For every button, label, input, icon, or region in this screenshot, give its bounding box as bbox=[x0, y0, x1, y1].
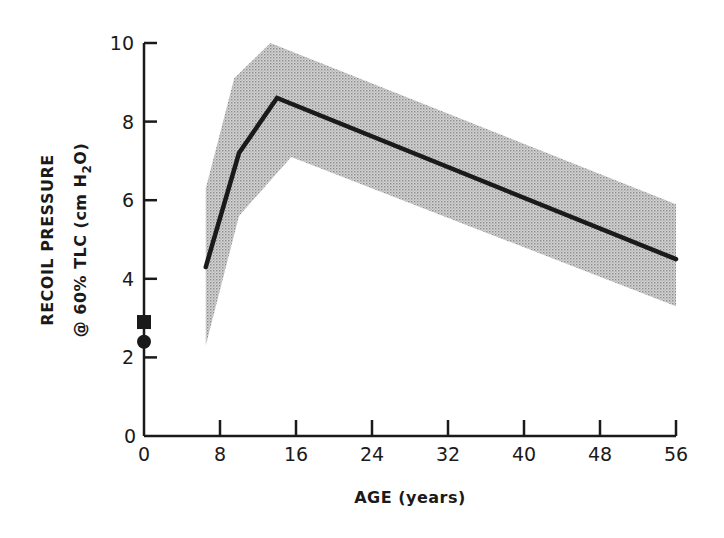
recoil-pressure-chart: 024681008162432404856 AGE (years) RECOIL… bbox=[0, 0, 724, 538]
x-tick-label: 0 bbox=[138, 443, 150, 465]
y-tick-label: 0 bbox=[124, 425, 136, 447]
range-band-area bbox=[206, 43, 676, 346]
range-band bbox=[206, 43, 676, 346]
x-tick-label: 8 bbox=[214, 443, 226, 465]
y-tick-label: 6 bbox=[122, 189, 134, 211]
square-marker bbox=[137, 315, 151, 329]
circle-marker bbox=[137, 335, 151, 349]
x-tick-label: 56 bbox=[664, 443, 688, 465]
x-tick-label: 32 bbox=[436, 443, 460, 465]
x-axis-title: AGE (years) bbox=[354, 488, 466, 507]
y-axis-title-line1: RECOIL PRESSURE bbox=[38, 154, 57, 325]
x-tick-label: 48 bbox=[588, 443, 612, 465]
y-tick-label: 8 bbox=[122, 111, 134, 133]
x-tick-label: 40 bbox=[512, 443, 536, 465]
y-tick-label: 2 bbox=[122, 346, 134, 368]
x-tick-label: 16 bbox=[284, 443, 308, 465]
y-tick-label: 4 bbox=[122, 268, 134, 290]
y-tick-label: 10 bbox=[110, 32, 134, 54]
y-axis-title-line2: @ 60% TLC (cm H2O) bbox=[71, 143, 94, 338]
x-tick-label: 24 bbox=[360, 443, 384, 465]
